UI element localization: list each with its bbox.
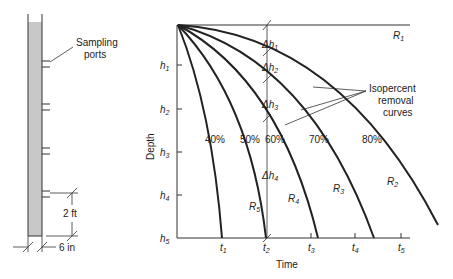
y-tick-h5: h5	[160, 233, 170, 245]
y-tick-h1: h1	[160, 60, 170, 72]
x-axis-label: Time	[276, 259, 298, 270]
x-tick-t3: t3	[308, 242, 315, 254]
region-r5: R5	[249, 201, 260, 213]
isopercent-curves	[178, 25, 438, 238]
annotation-line2: removal	[378, 95, 414, 106]
delta-h1: Δh1	[261, 39, 278, 51]
annotation-line1: Isopercent	[369, 83, 416, 94]
delta-h2: Δh2	[261, 62, 278, 74]
region-r4: R4	[288, 193, 299, 205]
settling-column: Sampling ports 2 ft 6 in	[13, 14, 118, 253]
region-r2: R2	[387, 176, 398, 188]
width-dim-label: 6 in	[59, 242, 75, 253]
sampling-leader-line	[50, 47, 73, 62]
region-r1: R1	[393, 30, 404, 42]
x-tick-labels: t1 t2 t3 t4 t5	[220, 242, 405, 254]
y-tick-h2: h2	[160, 104, 170, 116]
y-tick-h4: h4	[160, 190, 170, 202]
delta-h4: Δh4	[261, 170, 278, 182]
y-tick-labels: h1 h2 h3 h4 h5	[160, 60, 170, 245]
width-dimension	[13, 236, 56, 252]
curve-label-60: 60%	[265, 134, 285, 145]
settling-column-diagram: Sampling ports 2 ft 6 in	[0, 0, 453, 279]
region-r3: R3	[333, 183, 344, 195]
curve-40	[178, 25, 222, 238]
annotation-line3: curves	[383, 107, 412, 118]
isopercent-chart: h1 h2 h3 h4 h5 Depth t1 t2 t3 t4 t5 Time	[145, 20, 438, 270]
curve-label-80: 80%	[362, 134, 382, 145]
delta-h3: Δh3	[261, 99, 278, 111]
curve-label-50: 50%	[240, 134, 260, 145]
x-tick-t1: t1	[220, 242, 227, 254]
x-tick-t5: t5	[398, 242, 405, 254]
height-dim-label: 2 ft	[63, 208, 77, 219]
y-tick-h3: h3	[160, 147, 170, 159]
curve-label-70: 70%	[309, 134, 329, 145]
column-body	[28, 22, 42, 236]
x-tick-t4: t4	[352, 242, 359, 254]
sampling-label-1: Sampling	[76, 37, 118, 48]
sampling-ports	[42, 61, 50, 197]
sampling-label-2: ports	[84, 49, 106, 60]
x-tick-t2: t2	[263, 242, 270, 254]
y-axis-label: Depth	[145, 133, 156, 160]
curve-label-40: 40%	[205, 134, 225, 145]
